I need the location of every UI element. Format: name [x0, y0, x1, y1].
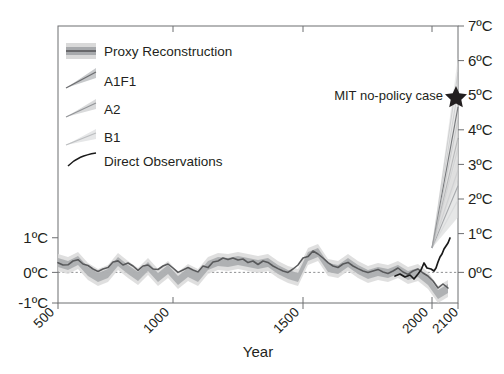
- legend-swatch-direct-observations: [68, 153, 96, 166]
- direct-observations-swatch-line: [68, 153, 96, 166]
- chart-svg: 1ºC 0ºC -1ºC 7ºC 6ºC 5ºC 4ºC 3ºC 2ºC 1ºC…: [0, 0, 504, 374]
- climate-chart-figure: 1ºC 0ºC -1ºC 7ºC 6ºC 5ºC 4ºC 3ºC 2ºC 1ºC…: [0, 0, 504, 374]
- x-label-1500: 1500: [270, 305, 302, 337]
- y-right-label-5: 5ºC: [468, 86, 493, 103]
- legend-swatch-proxy-reconstruction: [66, 43, 96, 59]
- legend-label-proxy-reconstruction: Proxy Reconstruction: [104, 44, 232, 59]
- legend-label-b1: B1: [104, 130, 121, 145]
- y-right-label-7: 7ºC: [468, 17, 493, 34]
- y-right-label-3: 3ºC: [468, 156, 493, 173]
- y-right-label-0: 0ºC: [468, 264, 493, 281]
- y-left-label-1: 1ºC: [23, 229, 48, 246]
- legend-label-a1f1: A1F1: [104, 74, 136, 89]
- legend-swatch-a1f1: [66, 68, 96, 88]
- chart-legend: Proxy Reconstruction A1F1 A2 B1: [66, 43, 232, 169]
- y-left-ticks: [52, 238, 58, 303]
- y-right-label-1: 1ºC: [468, 225, 493, 242]
- y-right-label-6: 6ºC: [468, 52, 493, 69]
- x-label-1000: 1000: [140, 305, 172, 337]
- x-axis-title: Year: [243, 343, 273, 360]
- y-left-label-0: 0ºC: [23, 264, 48, 281]
- y-right-label-2: 2ºC: [468, 190, 493, 207]
- x-label-2100: 2100: [429, 305, 461, 337]
- mit-no-policy-annotation: MIT no-policy case: [334, 88, 443, 103]
- y-right-ticks: [458, 26, 464, 272]
- x-label-2000: 2000: [399, 305, 431, 337]
- legend-label-direct-observations: Direct Observations: [104, 154, 223, 169]
- legend-swatch-a2: [66, 99, 96, 117]
- x-top-ticks: [173, 26, 432, 32]
- legend-label-a2: A2: [104, 102, 121, 117]
- legend-swatch-b1: [66, 129, 96, 145]
- y-right-label-4: 4ºC: [468, 121, 493, 138]
- a1f1-swatch-line: [66, 72, 96, 88]
